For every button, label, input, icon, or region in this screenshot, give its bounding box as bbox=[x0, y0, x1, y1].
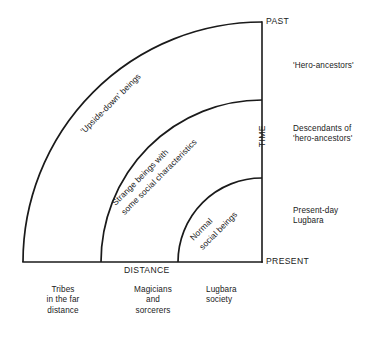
axis-label-distance: DISTANCE bbox=[124, 265, 170, 275]
diagram-canvas: PAST PRESENT TIME DISTANCE 'Hero-ancesto… bbox=[0, 0, 390, 339]
time-label-hero-ancestors: 'Hero-ancestors' bbox=[293, 61, 354, 71]
time-label-descendants: Descendants of 'hero-ancestors' bbox=[293, 124, 352, 145]
axis-cap-present: PRESENT bbox=[266, 256, 309, 266]
distance-label-tribes: Tribes in the far distance bbox=[24, 285, 102, 316]
axis-label-time: TIME bbox=[257, 125, 267, 147]
time-label-present-day-lugbara: Present-day Lugbara bbox=[293, 206, 338, 227]
distance-label-lugbara-society: Lugbara society bbox=[206, 285, 282, 306]
distance-label-magicians: Magicians and sorcerers bbox=[116, 285, 190, 316]
axis-cap-past: PAST bbox=[266, 16, 289, 26]
